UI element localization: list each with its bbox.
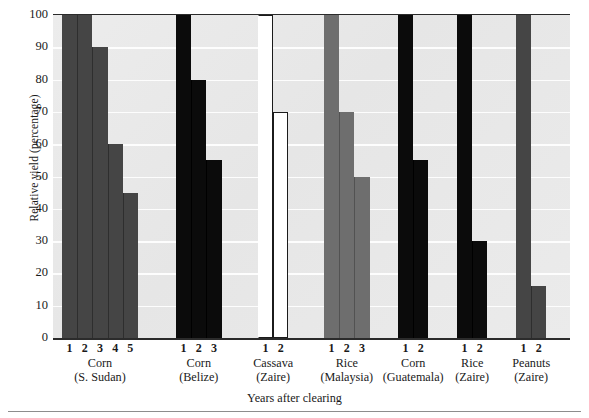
bar xyxy=(92,47,107,338)
bar xyxy=(206,160,221,338)
bar xyxy=(324,15,339,338)
bar xyxy=(273,112,288,338)
bar-group-corn-0 xyxy=(62,15,138,338)
bar-group-peanuts-6 xyxy=(516,15,546,338)
y-tick-60: 60 xyxy=(0,137,48,150)
x-tick-row: 12 xyxy=(516,341,546,356)
y-tick-40: 40 xyxy=(0,202,48,215)
x-tick-row: 123 xyxy=(176,341,222,356)
y-tick-10: 10 xyxy=(0,298,48,311)
x-tick-row: 123 xyxy=(324,341,370,356)
x-tick-1: 1 xyxy=(258,341,273,356)
x-tick-1: 1 xyxy=(62,341,77,356)
bar xyxy=(77,15,92,338)
bar-chart-figure: Relative yield (percentage) 100908070605… xyxy=(0,0,589,418)
x-tick-1: 1 xyxy=(176,341,191,356)
bar xyxy=(258,15,273,338)
bar xyxy=(413,160,428,338)
x-tick-2: 2 xyxy=(191,341,206,356)
bar-group-rice-5 xyxy=(457,15,487,338)
y-tick-0: 0 xyxy=(0,331,48,344)
bar xyxy=(354,177,369,339)
bar xyxy=(457,15,472,338)
x-tick-2: 2 xyxy=(339,341,354,356)
y-tick-90: 90 xyxy=(0,40,48,53)
group-caption-6: Peanuts(Zaire) xyxy=(471,356,589,385)
bar xyxy=(339,112,354,338)
x-tick-1: 1 xyxy=(324,341,339,356)
x-tick-3: 3 xyxy=(206,341,221,356)
bar-group-rice-3 xyxy=(324,15,370,338)
plot-area xyxy=(53,14,570,338)
group-crop-name: Corn xyxy=(88,356,112,370)
x-tick-row: 12345 xyxy=(62,341,138,356)
x-tick-1: 1 xyxy=(516,341,531,356)
bar xyxy=(123,193,138,338)
x-tick-4: 4 xyxy=(108,341,123,356)
bar xyxy=(398,15,413,338)
bar-group-corn-1 xyxy=(176,15,222,338)
x-tick-row: 12 xyxy=(258,341,288,356)
y-tick-80: 80 xyxy=(0,72,48,85)
bar xyxy=(108,144,123,338)
bar xyxy=(516,15,531,338)
x-tick-5: 5 xyxy=(123,341,138,356)
x-tick-1: 1 xyxy=(457,341,472,356)
x-axis-title: Years after clearing xyxy=(0,391,589,406)
bar xyxy=(191,80,206,338)
bar xyxy=(472,241,487,338)
x-tick-2: 2 xyxy=(472,341,487,356)
x-tick-2: 2 xyxy=(413,341,428,356)
group-location: (Zaire) xyxy=(471,370,589,384)
group-crop-name: Peanuts xyxy=(512,356,550,370)
bar xyxy=(62,15,77,338)
bottom-divider-rule xyxy=(8,411,581,412)
x-tick-3: 3 xyxy=(354,341,369,356)
x-tick-row: 12 xyxy=(457,341,487,356)
x-tick-2: 2 xyxy=(273,341,288,356)
y-tick-70: 70 xyxy=(0,105,48,118)
x-tick-3: 3 xyxy=(92,341,107,356)
bar xyxy=(531,286,546,338)
y-tick-20: 20 xyxy=(0,266,48,279)
bar-group-cassava-2 xyxy=(258,15,288,338)
group-crop-name: Corn xyxy=(187,356,211,370)
x-tick-2: 2 xyxy=(531,341,546,356)
bar xyxy=(176,15,191,338)
bar-group-corn-4 xyxy=(398,15,428,338)
y-tick-100: 100 xyxy=(0,8,48,21)
y-tick-50: 50 xyxy=(0,169,48,182)
x-tick-row: 12 xyxy=(398,341,428,356)
y-tick-30: 30 xyxy=(0,234,48,247)
x-tick-1: 1 xyxy=(398,341,413,356)
x-tick-2: 2 xyxy=(77,341,92,356)
